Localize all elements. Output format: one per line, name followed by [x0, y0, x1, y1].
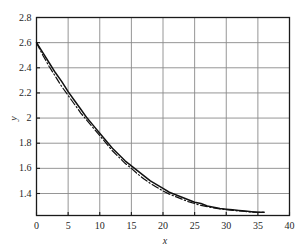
x-tick-label: 5	[54, 221, 82, 231]
y-tick-label: 2.6	[0, 38, 32, 48]
x-tick-label: 40	[276, 221, 304, 231]
x-axis-title: x	[158, 235, 172, 246]
x-tick-label: 35	[244, 221, 272, 231]
x-tick-label: 20	[149, 221, 177, 231]
grid-lines	[37, 18, 290, 216]
plot-canvas	[0, 0, 304, 251]
x-tick-label: 15	[117, 221, 145, 231]
x-tick-label: 25	[181, 221, 209, 231]
y-tick-label: 2.8	[0, 13, 32, 23]
y-tick-label: 1.8	[0, 138, 32, 148]
x-tick-label: 0	[23, 221, 51, 231]
chart-figure: 1.41.61.822.22.42.62.8 0510152025303540 …	[0, 0, 304, 251]
y-tick-label: 1.6	[0, 163, 32, 173]
y-tick-label: 2.4	[0, 63, 32, 73]
x-tick-label: 30	[212, 221, 240, 231]
y-tick-label: 1.4	[0, 189, 32, 199]
y-tick-label: 2.2	[0, 88, 32, 98]
y-axis-title: y	[8, 112, 19, 126]
x-tick-label: 10	[86, 221, 114, 231]
